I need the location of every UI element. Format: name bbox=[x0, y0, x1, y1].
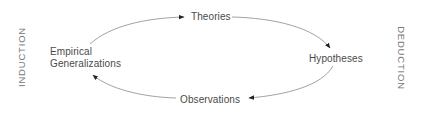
arrow-empirical-to-theories bbox=[90, 17, 184, 44]
node-empirical-line1: Empirical bbox=[50, 46, 121, 58]
label-induction: INDUCTION bbox=[16, 27, 27, 87]
arrow-hypotheses-to-observations bbox=[249, 66, 333, 98]
label-deduction: DEDUCTION bbox=[396, 26, 407, 90]
arrow-observations-to-empirical bbox=[93, 75, 176, 98]
node-empirical-line2: Generalizations bbox=[50, 58, 121, 70]
node-empirical-generalizations: Empirical Generalizations bbox=[50, 46, 121, 70]
node-hypotheses: Hypotheses bbox=[309, 53, 363, 65]
arrow-theories-to-hypotheses bbox=[232, 17, 330, 48]
node-theories: Theories bbox=[191, 11, 231, 23]
node-observations: Observations bbox=[180, 94, 240, 106]
